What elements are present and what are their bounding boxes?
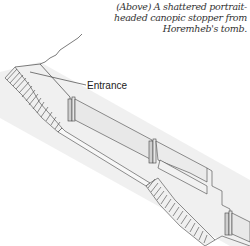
entrance-label: Entrance (87, 80, 127, 91)
doorway-pillar-1 (68, 97, 75, 121)
surface-crack-line (40, 34, 82, 64)
tomb-cross-section-diagram (0, 0, 250, 246)
doorway-pillar-2 (149, 139, 156, 163)
doorway-pillar-3 (225, 211, 232, 235)
